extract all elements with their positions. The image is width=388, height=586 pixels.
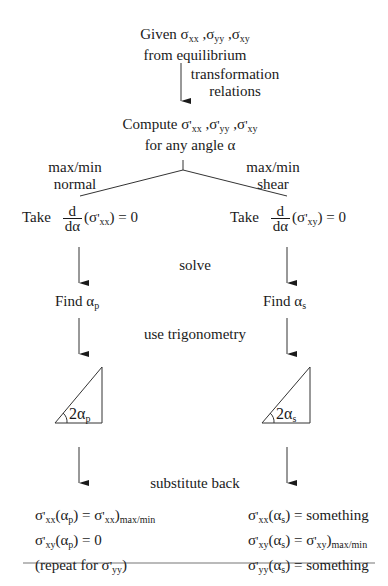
node-compute: Compute σ'xx ,σ'yy ,σ'xy for any angle α [90,116,290,154]
label-substitute: substitute back [120,475,270,492]
branch-label-normal: max/min normal [40,159,110,193]
derivative-fraction: d dα [63,204,82,233]
given-line2: from equilibrium [110,47,280,64]
angle-arc-right [270,413,274,423]
result-left-2: σ'xy(αp) = 0 [35,530,155,555]
results-left: σ'xx(αp) = σ'xx)max/min σ'xy(αp) = 0 (re… [35,505,155,580]
result-left-1: σ'xx(αp) = σ'xx)max/min [35,505,155,530]
result-left-3: (repeat for σ'yy) [35,555,155,580]
results-right: σ'xx(αs) = something σ'xy(αs) = σ'xy)max… [248,505,369,580]
triangle-label-right: 2αs [276,405,296,427]
node-take-right: Take d dα (σ'xy) = 0 [230,204,346,233]
label-trig: use trigonometry [120,326,270,343]
node-given: Given σxx ,σyy ,σxy from equilibrium [110,26,280,64]
label-solve: solve [150,257,240,274]
derivative-fraction: d dα [271,204,290,233]
result-right-1: σ'xx(αs) = something [248,505,369,530]
node-take-left: Take d dα (σ'xx) = 0 [22,204,138,233]
node-find-left: Find αp [55,293,99,314]
compute-line2: for any angle α [90,137,290,154]
result-right-2: σ'xy(αs) = σ'xy)max/min [248,530,369,555]
result-right-3: σ'yy(αs) = something [248,555,369,580]
node-find-right: Find αs [263,293,306,314]
given-line1: Given σxx ,σyy ,σxy [110,26,280,47]
label-transformation: transformation relations [185,66,285,100]
triangle-label-left: 2αp [69,405,90,427]
angle-arc-left [63,413,67,423]
compute-line1: Compute σ'xx ,σ'yy ,σ'xy [90,116,290,137]
branch-label-shear: max/min shear [238,159,308,193]
